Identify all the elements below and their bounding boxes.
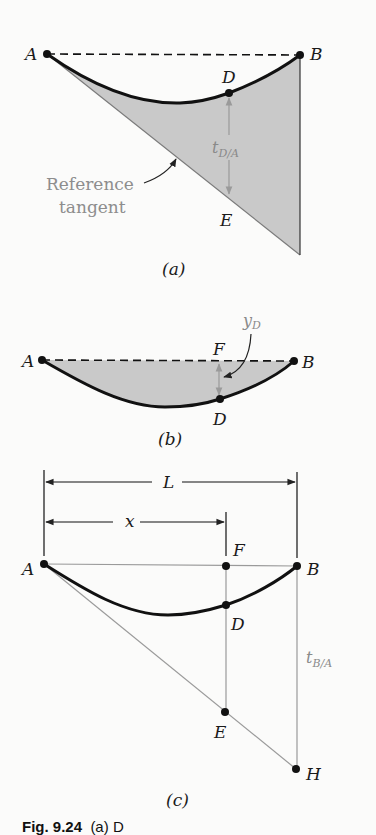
point-a-c [40,560,48,568]
label-d-b: D [212,409,227,429]
reference-pointer-arrow [144,159,176,183]
point-e-c [221,708,229,716]
point-b-c [293,562,301,570]
label-yd: yD [242,311,261,332]
label-l: L [162,472,174,492]
caption-figure-number: Fig. 9.24 [22,818,82,835]
label-tangent: tangent [59,197,126,217]
label-b-c: B [306,559,320,579]
label-b-b: B [301,352,315,372]
tangent-line-ah [44,564,296,769]
label-reference: Reference [46,174,134,194]
label-x: x [125,511,135,531]
label-f-b: F [212,339,226,359]
chord-ab-dashed [47,54,300,55]
label-a-c: A [20,559,34,579]
point-h-c [292,765,300,773]
point-f-c [222,562,230,570]
elastic-curve-c [44,564,297,615]
label-e-c: E [213,722,227,742]
label-d: D [221,67,236,87]
label-f-c: F [232,540,246,560]
label-a-b: A [20,351,34,371]
point-d-c [222,601,230,609]
label-e: E [219,210,233,230]
panel-a: A B D E tD/A Reference tangent (a) [23,44,323,279]
panel-b: A B F D yD (b) [20,311,315,449]
panel-label-a: (a) [162,259,185,279]
point-d [225,89,233,97]
panel-label-c: (c) [166,790,189,810]
label-a: A [23,44,37,64]
chord-ab-c [44,564,297,566]
label-h-c: H [305,764,322,784]
point-d-b [216,395,224,403]
label-d-c: D [230,614,245,634]
point-b [296,51,304,59]
label-b: B [309,44,323,64]
point-a-b [38,356,46,364]
point-a [43,50,51,58]
caption-text: (a) D [90,818,123,835]
figure-caption: Fig. 9.24 (a) D [22,818,124,835]
panel-c: L x A F B D E H tB/A (c) [20,470,332,810]
label-t-ba: tB/A [306,648,332,670]
point-b-b [290,357,298,365]
panel-label-b: (b) [158,429,182,449]
